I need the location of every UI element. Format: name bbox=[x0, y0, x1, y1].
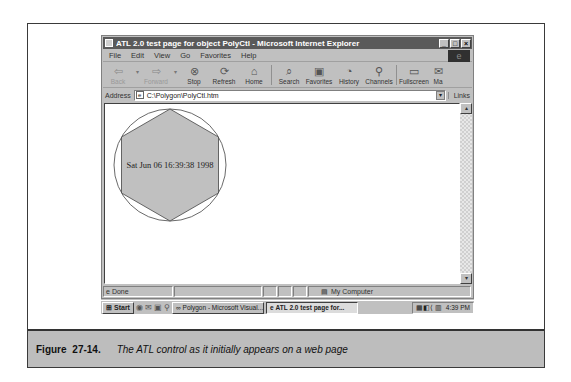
fullscreen-icon: ▭ bbox=[409, 65, 419, 78]
history-button[interactable]: ◔ History bbox=[334, 65, 364, 87]
toolbar-separator bbox=[396, 65, 397, 85]
forward-arrow-icon: ⇨ bbox=[152, 65, 161, 78]
taskbar: ⊞ Start ◉ ✉ ▣ ⚲ ∞ Polygon - Microsoft Vi… bbox=[101, 300, 474, 314]
toolbar: ⇦ Back ▾ ⇨ Forward ▾ ⊗ Stop ⟳ Refresh bbox=[103, 63, 472, 88]
ie-app-icon bbox=[105, 39, 113, 47]
address-bar: Address e C:\Polygon\PolyCtl.htm ▾ Links bbox=[103, 89, 472, 101]
menu-bar: File Edit View Go Favorites Help e bbox=[103, 50, 472, 62]
channels-icon: ⚲ bbox=[375, 65, 383, 78]
screenshot: ATL 2.0 test page for object PolyCtl - M… bbox=[101, 35, 474, 314]
channels-button[interactable]: ⚲ Channels bbox=[364, 65, 394, 87]
windows-logo-icon: ⊞ bbox=[106, 304, 112, 312]
scroll-up-button[interactable]: ▴ bbox=[460, 103, 472, 114]
task-atl-test-page[interactable]: e ATL 2.0 test page for... bbox=[266, 302, 358, 314]
back-button[interactable]: ⇦ Back bbox=[103, 65, 133, 87]
figure-caption: Figure 27-14. The ATL control as it init… bbox=[28, 329, 544, 367]
task-polygon-visual-studio[interactable]: ∞ Polygon - Microsoft Visual... bbox=[172, 302, 264, 314]
history-icon: ◔ bbox=[346, 65, 353, 78]
favorites-icon: ▣ bbox=[314, 65, 324, 78]
ie-throbber-icon: e bbox=[448, 50, 470, 62]
stop-button[interactable]: ⊗ Stop bbox=[179, 65, 209, 87]
figure-number: Figure 27-14. bbox=[36, 344, 101, 355]
fullscreen-button[interactable]: ▭ Fullscreen bbox=[399, 65, 429, 87]
stop-icon: ⊗ bbox=[190, 65, 199, 78]
ie-task-icon: e bbox=[270, 304, 274, 311]
status-progress bbox=[174, 286, 262, 297]
polygon-control[interactable]: Sat Jun 06 16:39:38 1998 bbox=[111, 106, 231, 224]
figure-frame: ATL 2.0 test page for object PolyCtl - M… bbox=[27, 23, 545, 368]
menu-view[interactable]: View bbox=[154, 51, 170, 60]
clock: 4:39 PM bbox=[446, 304, 470, 311]
menu-file[interactable]: File bbox=[109, 51, 121, 60]
address-input[interactable]: e C:\Polygon\PolyCtl.htm ▾ bbox=[134, 90, 446, 101]
refresh-icon: ⟳ bbox=[220, 65, 229, 78]
address-label: Address bbox=[105, 92, 131, 99]
menu-favorites[interactable]: Favorites bbox=[200, 51, 231, 60]
quicklaunch-ie-icon[interactable]: ◉ bbox=[136, 303, 143, 312]
search-button[interactable]: ⌕ Search bbox=[274, 65, 304, 87]
ie-status-icon: e bbox=[106, 288, 110, 295]
forward-button[interactable]: ⇨ Forward bbox=[141, 65, 171, 87]
date-text: Sat Jun 06 16:39:38 1998 bbox=[127, 160, 214, 170]
page-icon: e bbox=[136, 91, 144, 99]
menu-edit[interactable]: Edit bbox=[131, 51, 144, 60]
status-cell bbox=[278, 286, 292, 297]
status-cell bbox=[263, 286, 277, 297]
favorites-button[interactable]: ▣ Favorites bbox=[304, 65, 334, 87]
system-tray: ▦◧⟨ ▥ 4:39 PM bbox=[412, 302, 474, 314]
title-bar[interactable]: ATL 2.0 test page for object PolyCtl - M… bbox=[103, 37, 472, 49]
start-button[interactable]: ⊞ Start bbox=[102, 302, 134, 314]
home-button[interactable]: ⌂ Home bbox=[239, 65, 269, 87]
mail-button[interactable]: ✉ Ma bbox=[429, 65, 447, 87]
mail-icon: ✉ bbox=[434, 65, 443, 78]
minimize-button[interactable]: _ bbox=[439, 39, 449, 48]
status-bar: e Done ▤ My Computer bbox=[103, 286, 472, 298]
maximize-button[interactable]: □ bbox=[450, 39, 460, 48]
search-icon: ⌕ bbox=[286, 65, 292, 78]
links-button[interactable]: Links bbox=[448, 92, 472, 99]
back-arrow-icon: ⇦ bbox=[114, 65, 123, 78]
address-value: C:\Polygon\PolyCtl.htm bbox=[147, 92, 219, 99]
status-done: e Done bbox=[103, 286, 173, 297]
window-title: ATL 2.0 test page for object PolyCtl - M… bbox=[116, 39, 439, 48]
vertical-scrollbar[interactable]: ▴ ▾ bbox=[460, 103, 472, 284]
page-content: Sat Jun 06 16:39:38 1998 bbox=[104, 103, 460, 284]
quicklaunch-outlook-icon[interactable]: ✉ bbox=[145, 303, 152, 312]
toolbar-separator bbox=[271, 65, 272, 85]
visual-studio-icon: ∞ bbox=[176, 304, 181, 311]
forward-dropdown[interactable]: ▾ bbox=[171, 68, 179, 87]
address-dropdown-button[interactable]: ▾ bbox=[436, 91, 445, 100]
caption-text: The ATL control as it initially appears … bbox=[117, 344, 348, 355]
tray-icons[interactable]: ▦◧⟨ ▥ bbox=[416, 304, 442, 312]
refresh-button[interactable]: ⟳ Refresh bbox=[209, 65, 239, 87]
close-button[interactable]: × bbox=[461, 39, 471, 48]
computer-icon: ▤ bbox=[321, 288, 328, 296]
menu-go[interactable]: Go bbox=[180, 51, 190, 60]
home-icon: ⌂ bbox=[251, 65, 258, 78]
browser-window: ATL 2.0 test page for object PolyCtl - M… bbox=[101, 35, 474, 299]
back-dropdown[interactable]: ▾ bbox=[133, 68, 141, 87]
menu-help[interactable]: Help bbox=[241, 51, 256, 60]
status-cell bbox=[293, 286, 307, 297]
status-zone: ▤ My Computer bbox=[308, 286, 471, 297]
quicklaunch-channels-icon[interactable]: ⚲ bbox=[164, 303, 170, 312]
quicklaunch-desktop-icon[interactable]: ▣ bbox=[154, 303, 162, 312]
scroll-down-button[interactable]: ▾ bbox=[460, 273, 472, 284]
